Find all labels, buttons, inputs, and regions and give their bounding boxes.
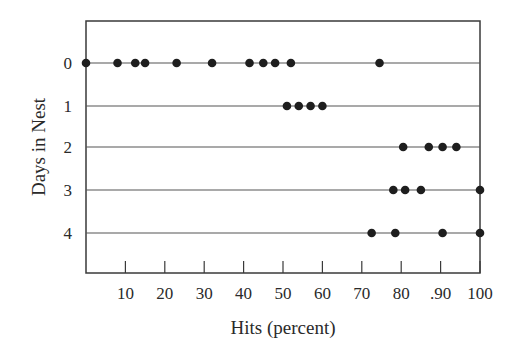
data-point [113, 59, 122, 68]
data-point [131, 59, 140, 68]
data-point [271, 59, 280, 68]
x-tick-label: .90 [430, 284, 451, 303]
y-tick-label: 1 [64, 97, 73, 116]
data-point [438, 143, 447, 152]
data-point [306, 102, 315, 111]
data-point [476, 186, 485, 195]
y-axis-title: Days in Nest [28, 97, 49, 196]
data-point [208, 59, 217, 68]
x-axis-ticks [125, 261, 480, 273]
data-point [452, 143, 461, 152]
x-tick-label: 10 [117, 284, 134, 303]
data-point [287, 59, 296, 68]
y-tick-label: 2 [64, 138, 73, 157]
data-point [283, 102, 292, 111]
data-point [389, 186, 398, 195]
x-tick-label: 30 [196, 284, 213, 303]
data-point [424, 143, 433, 152]
data-point [391, 229, 400, 238]
data-point [438, 229, 447, 238]
x-axis-title: Hits (percent) [231, 317, 336, 339]
data-point [82, 59, 91, 68]
data-point [141, 59, 150, 68]
x-tick-label: 70 [353, 284, 370, 303]
data-point [399, 143, 408, 152]
x-tick-label: 40 [235, 284, 252, 303]
y-tick-label: 4 [64, 224, 73, 243]
data-point [318, 102, 327, 111]
data-point [401, 186, 410, 195]
x-tick-label: 20 [156, 284, 173, 303]
x-tick-label: 60 [314, 284, 331, 303]
data-point [417, 186, 426, 195]
data-point [259, 59, 268, 68]
x-tick-label: 80 [393, 284, 410, 303]
x-tick-label: 50 [275, 284, 292, 303]
data-point [245, 59, 254, 68]
y-axis-tick-labels: 01234 [64, 54, 73, 243]
dot-plot-chart: 1020304050607080.90100 01234 Hits (perce… [0, 0, 518, 363]
data-point [294, 102, 303, 111]
y-tick-label: 0 [64, 54, 73, 73]
data-points [82, 59, 485, 238]
y-tick-label: 3 [64, 181, 73, 200]
x-axis-tick-labels: 1020304050607080.90100 [117, 284, 493, 303]
category-lines [86, 63, 480, 233]
data-point [476, 229, 485, 238]
data-point [172, 59, 181, 68]
data-point [375, 59, 384, 68]
data-point [367, 229, 376, 238]
x-tick-label: 100 [467, 284, 493, 303]
